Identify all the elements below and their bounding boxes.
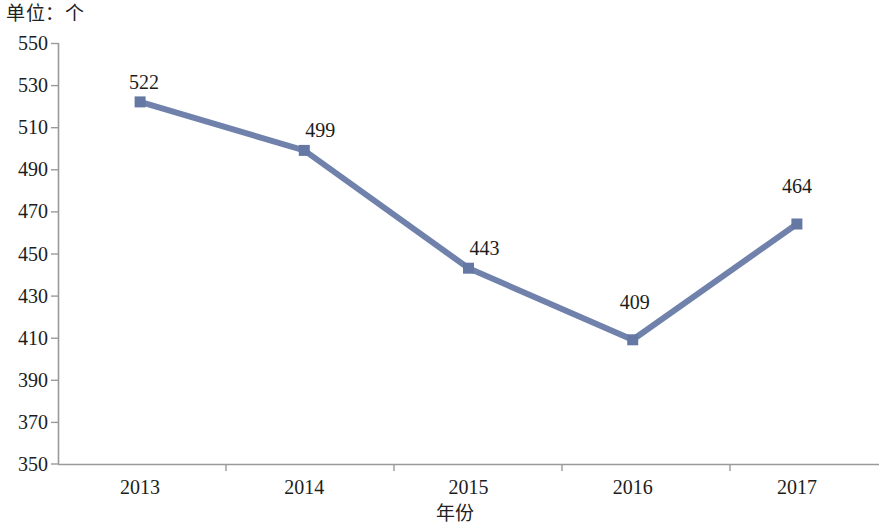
data-point-label: 464 <box>757 176 837 196</box>
x-axis-tick-label: 2013 <box>95 477 185 497</box>
y-axis-tick-label: 490 <box>0 159 48 179</box>
data-point-marker <box>791 219 802 230</box>
data-point-marker <box>299 145 310 156</box>
y-axis-tick-label: 350 <box>0 454 48 474</box>
y-axis-tick-label: 370 <box>0 412 48 432</box>
y-axis-tick-label: 410 <box>0 328 48 348</box>
data-point-marker <box>463 263 474 274</box>
data-point-label: 499 <box>280 120 360 140</box>
x-axis-title: 年份 <box>375 503 535 525</box>
data-point-label: 522 <box>104 72 184 92</box>
x-axis-tick-label: 2015 <box>424 477 514 497</box>
y-axis-tick-label: 550 <box>0 33 48 53</box>
y-axis-tick-label: 470 <box>0 201 48 221</box>
data-point-label: 409 <box>595 292 675 312</box>
x-axis-tick-label: 2017 <box>752 477 842 497</box>
data-point-marker <box>135 96 146 107</box>
y-axis-tick-label: 530 <box>0 75 48 95</box>
series-markers <box>135 96 803 345</box>
data-point-label: 443 <box>445 238 525 258</box>
series-line-path <box>140 102 797 340</box>
line-chart: 单位：个 <box>0 0 882 532</box>
y-axis-tick-label: 430 <box>0 286 48 306</box>
y-axis-tick-label: 390 <box>0 370 48 390</box>
y-axis-ticks <box>51 44 58 465</box>
x-axis-tick-label: 2016 <box>588 477 678 497</box>
y-axis-tick-label: 510 <box>0 117 48 137</box>
x-axis-tick-label: 2014 <box>259 477 349 497</box>
data-point-marker <box>627 334 638 345</box>
y-axis-tick-label: 450 <box>0 244 48 264</box>
